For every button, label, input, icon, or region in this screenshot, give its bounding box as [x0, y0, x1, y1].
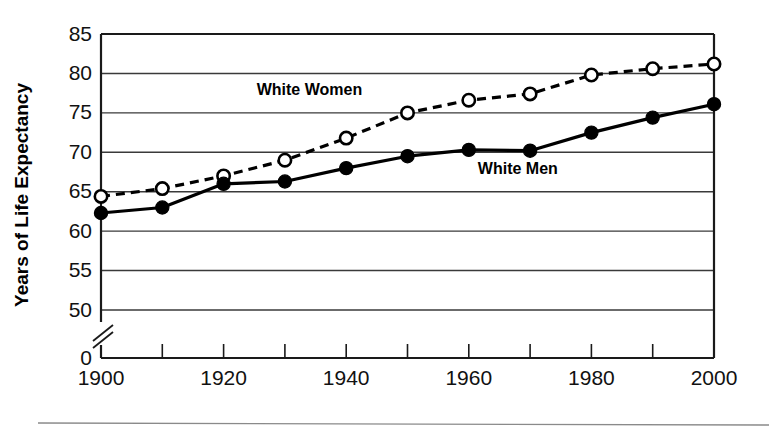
y-tick-label-50: 50 [69, 298, 92, 321]
series-label-white-men: White Men [478, 160, 558, 177]
data-point-white-men-1980 [585, 126, 598, 139]
x-axis-ticks: 190019201940196019802000 [78, 344, 738, 389]
data-point-white-women-1990 [647, 62, 659, 74]
x-tick-label-1920: 1920 [200, 366, 247, 389]
data-point-white-women-1910 [156, 182, 168, 194]
data-point-white-women-1960 [463, 94, 475, 106]
data-point-white-women-1980 [585, 69, 597, 81]
data-point-white-men-1970 [524, 144, 537, 157]
y-tick-label-55: 55 [69, 258, 92, 281]
data-point-white-men-2000 [707, 98, 720, 111]
data-point-white-men-1940 [340, 162, 353, 175]
data-point-white-women-1950 [401, 107, 413, 119]
y-axis-title-text: Years of Life Expectancy [11, 83, 32, 307]
series-line-white-women [101, 64, 714, 196]
series-label-white-women: White Women [257, 81, 362, 98]
data-point-white-men-1900 [94, 206, 107, 219]
y-axis-tick-labels: 05055606570758085 [69, 22, 92, 369]
x-tick-label-1940: 1940 [323, 366, 370, 389]
y-tick-label-85: 85 [69, 22, 92, 45]
x-tick-label-1900: 1900 [78, 366, 125, 389]
data-point-white-women-1970 [524, 88, 536, 100]
x-tick-label-2000: 2000 [691, 366, 738, 389]
chart-canvas: Years of Life Expectancy 050556065707580… [0, 0, 769, 433]
data-point-white-women-1940 [340, 132, 352, 144]
y-axis-break-icon [93, 325, 113, 348]
data-point-white-men-1910 [156, 201, 169, 214]
y-tick-label-65: 65 [69, 179, 92, 202]
data-point-white-men-1920 [217, 177, 230, 190]
data-point-white-men-1950 [401, 150, 414, 163]
data-point-white-women-2000 [708, 58, 720, 70]
x-tick-label-1960: 1960 [445, 366, 492, 389]
data-point-white-men-1990 [646, 111, 659, 124]
data-point-white-men-1960 [462, 143, 475, 156]
data-point-white-men-1930 [278, 175, 291, 188]
y-tick-label-60: 60 [69, 219, 92, 242]
footer-divider [38, 423, 769, 425]
y-axis-title: Years of Life Expectancy [11, 83, 32, 307]
y-tick-label-70: 70 [69, 140, 92, 163]
y-tick-label-80: 80 [69, 61, 92, 84]
y-tick-label-75: 75 [69, 100, 92, 123]
data-series [94, 58, 720, 220]
data-point-white-women-1930 [279, 154, 291, 166]
x-tick-label-1980: 1980 [568, 366, 615, 389]
data-point-white-women-1900 [95, 190, 107, 202]
life-expectancy-chart: Years of Life Expectancy 050556065707580… [0, 0, 769, 433]
